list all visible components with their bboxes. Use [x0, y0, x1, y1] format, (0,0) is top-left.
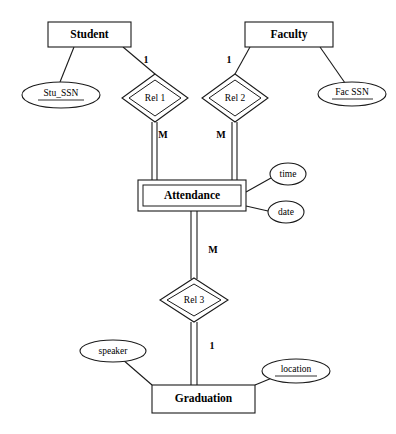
attribute-fac-ssn-label: Fac SSN [335, 87, 369, 97]
conn-attendance-rel3 [191, 211, 197, 279]
cardinality-rel3-graduation: 1 [210, 340, 215, 351]
entity-graduation-label: Graduation [175, 392, 233, 404]
conn-student-rel1 [123, 47, 155, 74]
relationship-rel3[interactable]: Rel 3 [160, 278, 228, 322]
entity-attendance-label: Attendance [164, 189, 220, 201]
er-diagram-canvas: Student Faculty Attendance Graduation Re… [0, 0, 396, 434]
attribute-speaker-label: speaker [98, 346, 128, 356]
attribute-time-label: time [280, 169, 297, 179]
conn-student-stu_ssn [60, 47, 74, 82]
cardinality-rel1-attendance: M [158, 129, 168, 140]
entity-student-label: Student [70, 28, 109, 40]
attribute-location[interactable]: location [262, 359, 330, 383]
relationship-rel1[interactable]: Rel 1 [122, 74, 188, 122]
conn-rel2-attendance [232, 122, 237, 180]
conn-attendance-date [246, 206, 268, 211]
attribute-date[interactable]: date [268, 201, 304, 223]
attribute-stu-ssn-label: Stu_SSN [44, 88, 79, 98]
conn-faculty-rel2 [235, 47, 250, 74]
relationship-rel2-label: Rel 2 [225, 93, 246, 103]
conn-attendance-time [246, 178, 271, 192]
relationship-rel1-label: Rel 1 [145, 93, 166, 103]
cardinality-faculty-rel2: 1 [227, 54, 232, 65]
attribute-speaker[interactable]: speaker [80, 340, 146, 362]
attribute-fac-ssn[interactable]: Fac SSN [318, 82, 386, 106]
attribute-time[interactable]: time [270, 163, 306, 185]
conn-faculty-fac_ssn [320, 47, 345, 83]
conn-rel3-graduation [191, 322, 197, 385]
entity-student[interactable]: Student [48, 22, 131, 47]
attribute-stu-ssn[interactable]: Stu_SSN [22, 82, 100, 108]
cardinality-attendance-rel3: M [208, 244, 218, 255]
entity-attendance[interactable]: Attendance [138, 180, 246, 211]
entity-faculty[interactable]: Faculty [245, 22, 333, 47]
entity-graduation[interactable]: Graduation [152, 385, 255, 413]
cardinality-rel2-attendance: M [216, 129, 226, 140]
conn-rel1-attendance [152, 122, 157, 180]
relationship-rel3-label: Rel 3 [184, 295, 205, 305]
conn-graduation-speaker [122, 359, 152, 385]
cardinality-student-rel1: 1 [144, 54, 149, 65]
attribute-date-label: date [278, 207, 294, 217]
er-diagram-svg: Student Faculty Attendance Graduation Re… [0, 0, 396, 434]
attribute-location-label: location [281, 364, 312, 374]
relationship-rel2[interactable]: Rel 2 [202, 74, 268, 122]
entity-faculty-label: Faculty [270, 28, 307, 41]
